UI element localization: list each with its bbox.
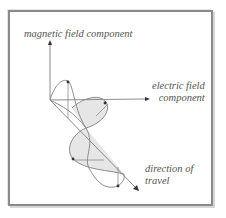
direction-text-line2: travel: [145, 175, 193, 187]
magnetic-field-label: magnetic field component: [24, 28, 132, 40]
electric-arrowhead-icon: [145, 97, 150, 101]
electric-trough-dot-icon: [72, 158, 75, 161]
electric-peak-dot-icon: [104, 102, 107, 105]
electric-field-text-line1: electric field: [152, 80, 205, 92]
electric-wave-lobe-1: [72, 97, 108, 128]
electric-field-label: electric field component: [152, 80, 205, 104]
electric-axis: [50, 99, 147, 100]
magnetic-trough-dot-icon: [117, 185, 120, 188]
magnetic-field-text: magnetic field component: [24, 28, 132, 39]
electric-field-text-line2: component: [152, 92, 205, 104]
direction-of-travel-label: direction of travel: [145, 163, 193, 187]
magnetic-arrowhead-icon: [48, 40, 52, 45]
magnetic-peak-dot-icon: [67, 81, 70, 84]
direction-text-line1: direction of: [145, 163, 193, 175]
